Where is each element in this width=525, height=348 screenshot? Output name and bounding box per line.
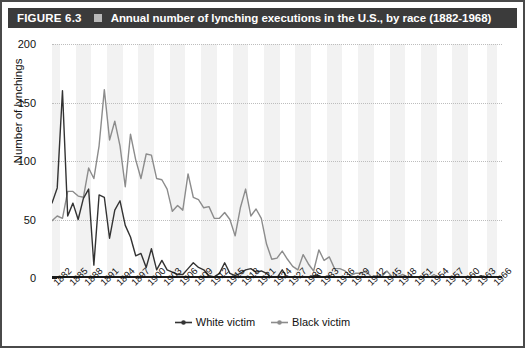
y-tick-label: 200 bbox=[18, 38, 36, 50]
figure-number-label: FIGURE 6.3 bbox=[17, 12, 82, 24]
figure-container: FIGURE 6.3 Annual number of lynching exe… bbox=[0, 0, 525, 348]
y-tick-label: 100 bbox=[18, 155, 36, 167]
series-svg bbox=[52, 44, 502, 278]
y-tick-label: 0 bbox=[30, 272, 36, 284]
y-tick-label: 150 bbox=[18, 97, 36, 109]
legend-entry-white-victim[interactable]: White victim bbox=[175, 316, 255, 328]
x-axis-ticks: 1882188518881891189418971900190319061909… bbox=[52, 278, 502, 318]
square-bullet-icon bbox=[94, 14, 102, 22]
y-tick-label: 50 bbox=[24, 214, 36, 226]
legend-label: Black victim bbox=[292, 316, 350, 328]
figure-title: Annual number of lynching executions in … bbox=[111, 12, 492, 24]
series-lines bbox=[52, 44, 502, 278]
series-line-white-victim bbox=[52, 91, 502, 278]
series-line-black-victim bbox=[52, 90, 502, 278]
legend-entry-black-victim[interactable]: Black victim bbox=[271, 316, 350, 328]
legend-label: White victim bbox=[196, 316, 255, 328]
y-axis-ticks: 050100150200 bbox=[14, 44, 46, 278]
chart-legend: White victimBlack victim bbox=[0, 316, 525, 328]
line-dot-marker-icon bbox=[271, 318, 288, 327]
figure-title-bar: FIGURE 6.3 Annual number of lynching exe… bbox=[8, 8, 517, 28]
line-dot-marker-icon bbox=[175, 318, 192, 327]
plot-area bbox=[52, 44, 502, 278]
